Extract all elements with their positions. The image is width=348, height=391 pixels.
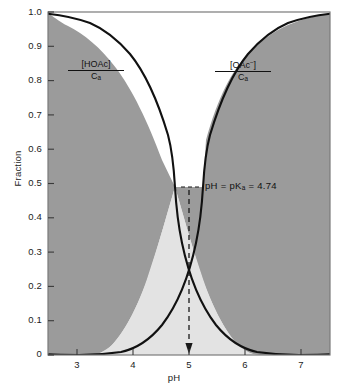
y-tick-label-0: 0 <box>16 348 42 359</box>
x-axis-title: pH <box>0 372 348 383</box>
x-tick-label-5: 5 <box>179 359 199 370</box>
y-axis-title: Fraction <box>12 139 23 199</box>
y-tick-label-0.9: 0.9 <box>16 40 42 51</box>
hoac-denominator: Ca <box>68 71 124 82</box>
x-tick-label-6: 6 <box>235 359 255 370</box>
chart-plot-area <box>0 0 348 391</box>
x-tick-label-4: 4 <box>123 359 143 370</box>
y-tick-label-0.7: 0.7 <box>16 109 42 120</box>
hoac-numerator: [HOAc] <box>68 60 124 71</box>
oac-numerator: [OAc−] <box>215 60 271 72</box>
y-tick-label-0.2: 0.2 <box>16 280 42 291</box>
y-tick-label-1.0: 1.0 <box>16 6 42 17</box>
y-tick-label-0.4: 0.4 <box>16 211 42 222</box>
oac-denominator: Ca <box>215 72 271 83</box>
ph-fraction-chart: 1.0 0.9 0.8 0.7 0.6 0.5 0.4 0.3 0.2 0.1 … <box>0 0 348 391</box>
x-tick-label-3: 3 <box>67 359 87 370</box>
y-tick-label-0.8: 0.8 <box>16 74 42 85</box>
hoac-region-label: [HOAc] Ca <box>68 60 124 82</box>
oac-region-label: [OAc−] Ca <box>215 60 271 83</box>
y-tick-label-0.3: 0.3 <box>16 246 42 257</box>
pka-annotation-label: pH = pKₐ = 4.74 <box>205 180 277 191</box>
y-tick-label-0.1: 0.1 <box>16 314 42 325</box>
x-tick-label-7: 7 <box>291 359 311 370</box>
